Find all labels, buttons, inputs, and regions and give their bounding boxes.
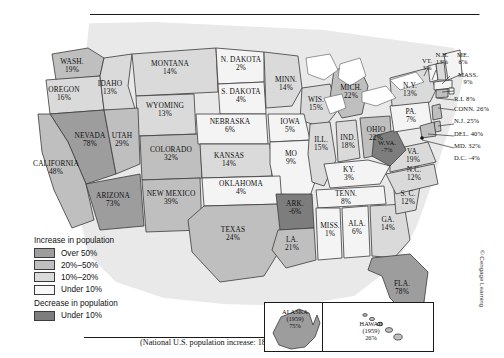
inset-label-hawaii: HAWAII (1959) 26% bbox=[347, 321, 395, 341]
population-map-figure: WASH.19% OREGON16% IDAHO13% MONTANA14% W… bbox=[0, 0, 504, 358]
state-AL bbox=[342, 206, 370, 258]
legend-label-over50: Over 50% bbox=[61, 249, 97, 258]
legend-label-decrease-under10: Under 10% bbox=[61, 311, 102, 320]
legend-label-20-50: 20%–50% bbox=[61, 261, 98, 270]
legend-swatch-10-20 bbox=[34, 272, 55, 282]
dc-dot bbox=[420, 136, 424, 140]
legend-swatch-over50 bbox=[34, 248, 55, 258]
state-NE bbox=[196, 114, 268, 144]
legend-swatch-20-50 bbox=[34, 260, 55, 270]
state-CO bbox=[140, 134, 202, 180]
legend-item-20-50: 20%–50% bbox=[34, 260, 182, 270]
state-TN bbox=[316, 186, 386, 208]
state-ND bbox=[216, 48, 264, 84]
legend-item-decrease-under10: Under 10% bbox=[34, 311, 182, 321]
state-NJ bbox=[432, 104, 442, 120]
state-IA bbox=[268, 114, 310, 142]
legend-decrease-title: Decrease in population bbox=[34, 299, 182, 308]
state-WA bbox=[52, 48, 104, 80]
state-MT bbox=[132, 48, 218, 96]
legend-label-under10: Under 10% bbox=[61, 285, 102, 294]
legend-item-under10: Under 10% bbox=[34, 285, 182, 295]
state-KY bbox=[324, 160, 390, 188]
state-CT bbox=[436, 89, 448, 98]
legend-increase-title: Increase in population bbox=[34, 236, 182, 245]
legend-label-10-20: 10%–20% bbox=[61, 273, 98, 282]
state-AR bbox=[276, 194, 314, 230]
state-SD bbox=[218, 82, 266, 114]
state-OR bbox=[46, 76, 104, 114]
legend-item-over50: Over 50% bbox=[34, 248, 182, 258]
state-KS bbox=[200, 144, 272, 178]
state-MS bbox=[316, 208, 342, 260]
state-IN bbox=[336, 120, 360, 162]
state-WY bbox=[136, 94, 196, 136]
national-increase-note: (National U.S. population increase: 18.5… bbox=[140, 338, 282, 347]
legend: Increase in population Over 50% 20%–50% … bbox=[32, 236, 182, 323]
us-map: WASH.19% OREGON16% IDAHO13% MONTANA14% W… bbox=[24, 14, 480, 338]
state-OK bbox=[202, 176, 282, 206]
credit-line: © Cengage Learning bbox=[479, 250, 486, 307]
legend-swatch-under10 bbox=[34, 285, 55, 295]
state-NH bbox=[436, 62, 446, 80]
inset-label-alaska: ALASKA (1959) 75% bbox=[271, 309, 319, 329]
legend-item-10-20: 10%–20% bbox=[34, 272, 182, 282]
alaska-hawaii-inset: ALASKA (1959) 75% HAWAII (1959) 26% bbox=[264, 302, 434, 352]
legend-swatch-decrease bbox=[34, 311, 55, 321]
